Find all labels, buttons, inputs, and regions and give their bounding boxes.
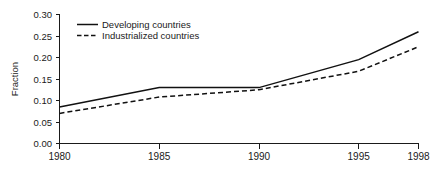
legend-label-industrialized-countries: Industrialized countries (102, 30, 199, 41)
y-tick-label: 0.05 (34, 117, 53, 128)
line-chart-figure: 0.30 0.25 0.20 0.15 0.10 0.05 0.00 Fract… (0, 0, 445, 173)
y-tick-label: 0.25 (34, 31, 53, 42)
y-tick-label: 0.20 (34, 52, 53, 63)
figure-background (0, 0, 445, 173)
y-tick-label: 0.30 (34, 9, 53, 20)
y-tick-label: 0.10 (34, 95, 53, 106)
y-tick-label: 0.00 (34, 138, 53, 149)
legend-label-developing-countries: Developing countries (102, 19, 191, 30)
y-tick-label: 0.15 (34, 74, 53, 85)
x-tick-label: 1995 (348, 151, 371, 162)
x-tick-label: 1980 (48, 151, 71, 162)
x-tick-label: 1998 (407, 151, 430, 162)
y-axis-title: Fraction (9, 62, 20, 96)
x-tick-label: 1985 (148, 151, 171, 162)
x-tick-label: 1990 (248, 151, 271, 162)
